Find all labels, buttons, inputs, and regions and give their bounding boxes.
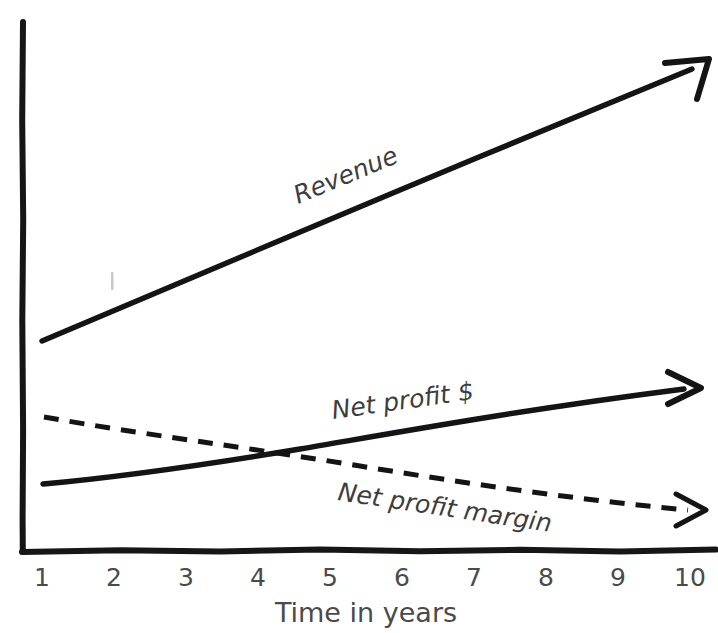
- y-axis-line: [22, 22, 23, 551]
- pencil-smudge: [111, 272, 114, 290]
- x-tick-2: 2: [106, 563, 122, 592]
- x-tick-10: 10: [674, 563, 706, 592]
- chart-canvas: Revenue Net profit $ Net profit margin 1…: [0, 0, 718, 633]
- x-tick-1: 1: [34, 563, 50, 592]
- x-axis-title: Time in years: [274, 597, 457, 628]
- net-profit-margin-arrowhead: [676, 494, 706, 526]
- x-tick-6: 6: [394, 563, 410, 592]
- x-axis-tick-labels: 1 2 3 4 5 6 7 8 9 10: [34, 563, 706, 592]
- revenue-line: [42, 69, 692, 341]
- net-profit-dollar-label: Net profit $: [330, 376, 476, 425]
- x-tick-4: 4: [250, 563, 266, 592]
- x-tick-7: 7: [466, 563, 482, 592]
- x-tick-8: 8: [538, 563, 554, 592]
- series-net-profit-dollar: [43, 372, 701, 484]
- x-tick-5: 5: [322, 563, 338, 592]
- x-tick-9: 9: [610, 563, 626, 592]
- x-axis-line: [22, 549, 716, 552]
- hand-drawn-chart: Revenue Net profit $ Net profit margin 1…: [0, 0, 718, 633]
- x-tick-3: 3: [178, 563, 194, 592]
- series-labels-group: Revenue Net profit $ Net profit margin: [289, 141, 554, 538]
- net-profit-margin-label: Net profit margin: [336, 477, 554, 538]
- series-revenue: [42, 59, 709, 341]
